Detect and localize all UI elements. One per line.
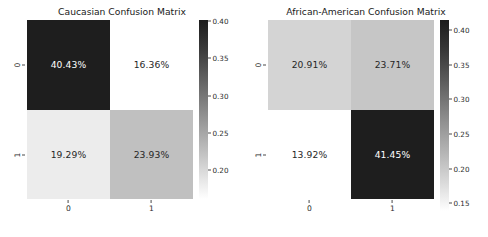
x-tick-1: 1 — [390, 200, 395, 213]
colorbar-tick-label: 0.20 — [454, 164, 470, 173]
heatmap-cell-0-1[interactable]: 16.36% — [110, 20, 193, 110]
y-tick-1: 1 — [15, 150, 25, 159]
heatmap-cell-0-0[interactable]: 40.43% — [27, 20, 110, 110]
colorbar-tick-label: 0.30 — [213, 91, 229, 100]
colorbar-tick-label: 0.30 — [454, 95, 470, 104]
colorbar-tick-mark — [208, 58, 211, 59]
y-tick-mark — [263, 154, 266, 155]
colorbar-tick-mark — [208, 95, 211, 96]
colorbar-tick-label: 0.35 — [454, 60, 470, 69]
heatmap-caucasian: 40.43% 16.36% 19.29% 23.93% — [27, 20, 193, 199]
colorbar-tick-5: 0.15 — [449, 199, 470, 208]
x-tick-label: 1 — [149, 204, 154, 213]
x-tick-label: 1 — [390, 204, 395, 213]
colorbar-tick-mark — [449, 134, 452, 135]
heatmap-cell-label: 13.92% — [292, 149, 328, 160]
colorbar-tick-mark — [208, 21, 211, 22]
colorbar-tick-mark — [449, 203, 452, 204]
colorbar-tick-mark — [449, 29, 452, 30]
colorbar-tick-label: 0.35 — [213, 54, 229, 63]
heatmap-cell-label: 19.29% — [51, 149, 87, 160]
colorbar-tick-mark — [208, 132, 211, 133]
colorbar-tick-label: 0.25 — [213, 128, 229, 137]
colorbar-tick-label: 0.40 — [454, 25, 470, 34]
colorbar-gradient — [199, 20, 208, 199]
panel-african-american: African-American Confusion Matrix 20.91%… — [244, 0, 488, 237]
heatmap-cell-label: 40.43% — [51, 59, 87, 70]
y-tick-0: 0 — [15, 60, 25, 69]
heatmap-cell-0-0[interactable]: 20.91% — [268, 20, 351, 110]
colorbar-tick-3: 0.25 — [208, 128, 229, 137]
y-tick-mark — [22, 154, 25, 155]
colorbar-tick-1: 0.35 — [449, 60, 470, 69]
heatmap-cell-label: 23.71% — [375, 59, 411, 70]
x-tick-label: 0 — [307, 204, 312, 213]
colorbar-tick-3: 0.25 — [449, 130, 470, 139]
colorbar-tick-2: 0.30 — [208, 91, 229, 100]
colorbar-tick-mark — [449, 64, 452, 65]
colorbar-gradient — [440, 20, 449, 211]
colorbar-tick-4: 0.20 — [208, 166, 229, 175]
colorbar-tick-0: 0.40 — [449, 25, 470, 34]
colorbar-african-american[interactable]: 0.40 0.35 0.30 0.25 0.20 0.15 — [440, 20, 449, 211]
heatmap-cell-1-0[interactable]: 19.29% — [27, 110, 110, 200]
y-tick-1: 1 — [256, 150, 266, 159]
y-tick-label: 1 — [13, 152, 22, 157]
colorbar-tick-mark — [449, 99, 452, 100]
y-tick-label: 0 — [254, 62, 263, 67]
x-tick-label: 0 — [66, 204, 71, 213]
x-tick-mark — [68, 200, 69, 203]
colorbar-tick-0: 0.40 — [208, 17, 229, 26]
colorbar-tick-mark — [208, 170, 211, 171]
y-tick-label: 1 — [254, 152, 263, 157]
heatmap-cell-label: 23.93% — [134, 149, 170, 160]
heatmap-african-american: 20.91% 23.71% 13.92% 41.45% — [268, 20, 434, 199]
colorbar-tick-label: 0.40 — [213, 17, 229, 26]
colorbar-tick-4: 0.20 — [449, 164, 470, 173]
x-tick-1: 1 — [149, 200, 154, 213]
colorbar-tick-label: 0.15 — [454, 199, 470, 208]
heatmap-cell-label: 41.45% — [375, 149, 411, 160]
x-tick-0: 0 — [66, 200, 71, 213]
heatmap-cell-0-1[interactable]: 23.71% — [351, 20, 434, 110]
colorbar-tick-label: 0.25 — [454, 130, 470, 139]
x-tick-mark — [309, 200, 310, 203]
y-tick-mark — [22, 64, 25, 65]
heatmap-cell-1-1[interactable]: 23.93% — [110, 110, 193, 200]
x-tick-mark — [392, 200, 393, 203]
y-tick-0: 0 — [256, 60, 266, 69]
colorbar-tick-label: 0.20 — [213, 166, 229, 175]
colorbar-tick-mark — [449, 168, 452, 169]
x-tick-0: 0 — [307, 200, 312, 213]
colorbar-tick-1: 0.35 — [208, 54, 229, 63]
panel-caucasian: Caucasian Confusion Matrix 40.43% 16.36%… — [0, 0, 244, 237]
y-tick-mark — [263, 64, 266, 65]
heatmap-cell-1-0[interactable]: 13.92% — [268, 110, 351, 200]
heatmap-cell-1-1[interactable]: 41.45% — [351, 110, 434, 200]
figure-canvas: Caucasian Confusion Matrix 40.43% 16.36%… — [0, 0, 488, 237]
y-tick-label: 0 — [13, 62, 22, 67]
panel-title-african-american: African-American Confusion Matrix — [244, 6, 488, 18]
x-tick-mark — [151, 200, 152, 203]
colorbar-caucasian[interactable]: 0.40 0.35 0.30 0.25 0.20 — [199, 20, 208, 199]
heatmap-cell-label: 20.91% — [292, 59, 328, 70]
colorbar-tick-2: 0.30 — [449, 95, 470, 104]
heatmap-cell-label: 16.36% — [134, 59, 170, 70]
